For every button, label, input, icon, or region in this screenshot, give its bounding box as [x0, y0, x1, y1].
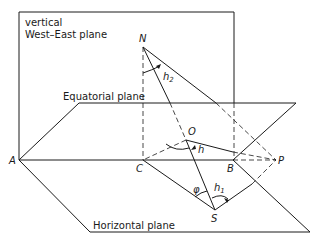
angle-h2-arrow-icon [156, 64, 161, 69]
sundial-geometry-diagram: vertical West–East plane Equatorial plan… [0, 0, 317, 242]
horizontal-plane-label: Horizontal plane [93, 220, 175, 231]
angle-h1-label: h1 [214, 182, 225, 195]
n-to-p-hidden [216, 103, 276, 160]
o-to-c-line [143, 140, 186, 160]
gnomon-hidden [170, 103, 186, 140]
point-b-label: B [227, 163, 234, 174]
angle-h-label: h [198, 144, 204, 155]
angle-phi-label: φ [193, 184, 200, 195]
point-p-label: P [278, 155, 285, 166]
vertical-plane-label-line1: vertical [25, 17, 62, 28]
s-to-p-hidden [252, 160, 276, 184]
o-to-p-line [186, 140, 233, 152]
angle-h2-label: h2 [163, 71, 174, 84]
vertical-plane-label-line2: West–East plane [25, 29, 107, 40]
angle-h-arrow-icon [191, 145, 196, 150]
point-n-label: N [139, 33, 147, 44]
angle-h1-arc [212, 196, 228, 199]
o-to-p-hidden [233, 152, 276, 160]
n-to-p-upper [143, 47, 216, 103]
point-a-label: A [8, 155, 16, 166]
equatorial-plane-label: Equatorial plane [63, 91, 145, 102]
point-o-label: O [188, 126, 196, 137]
angle-h-arc [166, 144, 189, 149]
point-c-label: C [136, 163, 143, 174]
point-s-label: S [211, 213, 218, 224]
equatorial-plane [19, 103, 296, 160]
